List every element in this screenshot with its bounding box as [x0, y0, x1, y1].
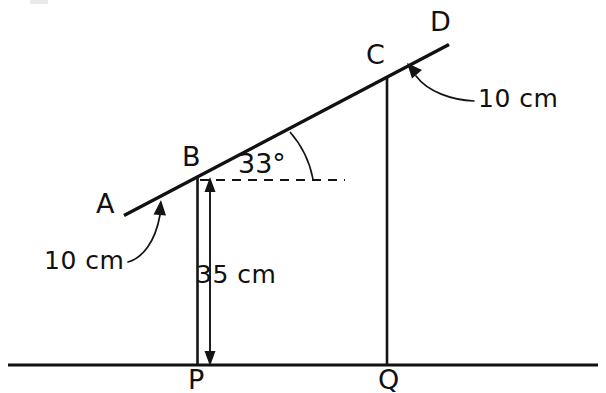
- leader-curve-left: [128, 215, 160, 262]
- angle-arc-33: [290, 132, 313, 179]
- label-length-ab-10cm: 10 cm: [44, 248, 124, 273]
- geometry-diagram: A B C D P Q 33° 10 cm 10 cm 35 cm: [0, 0, 606, 393]
- geometry-canvas: [0, 0, 606, 393]
- label-point-b: B: [182, 143, 201, 170]
- inclined-line-AD: [124, 45, 449, 216]
- label-height-bp-35cm: 35 cm: [196, 262, 276, 287]
- label-point-p: P: [188, 366, 204, 393]
- label-point-a: A: [96, 190, 114, 217]
- leader-arrowhead-right: [407, 63, 422, 79]
- label-point-q: Q: [378, 366, 399, 393]
- label-point-d: D: [430, 8, 451, 35]
- leader-curve-right: [416, 76, 474, 101]
- label-angle-33: 33°: [238, 150, 286, 177]
- label-length-cd-10cm: 10 cm: [478, 86, 558, 111]
- leader-arrowhead-left: [154, 200, 167, 216]
- label-point-c: C: [366, 41, 385, 68]
